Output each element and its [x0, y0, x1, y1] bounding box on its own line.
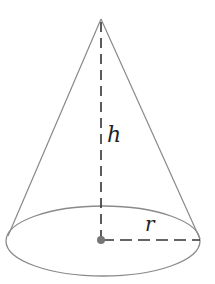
height-label: h: [107, 124, 121, 146]
cone-diagram: h r: [0, 0, 215, 284]
base-center-point: [97, 236, 105, 244]
cone-left-slant: [8, 19, 101, 236]
radius-label: r: [145, 214, 155, 234]
